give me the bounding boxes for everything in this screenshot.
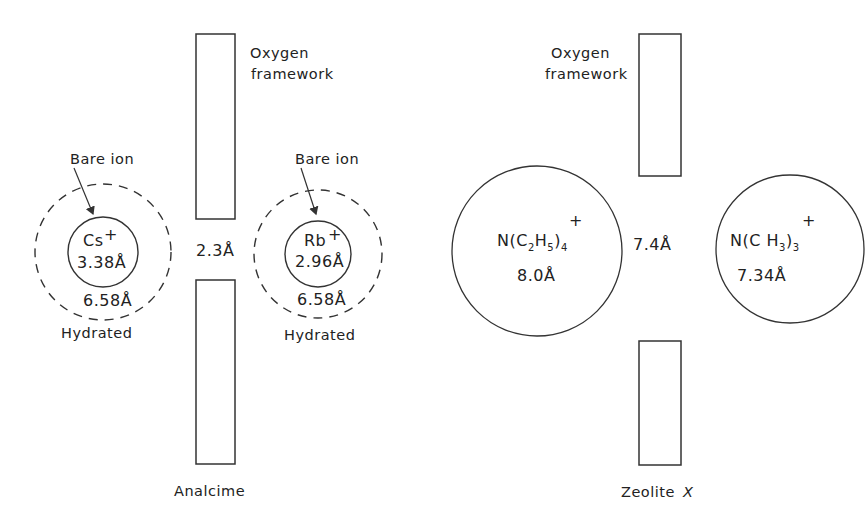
cs-symbol: Cs [83, 231, 104, 250]
zeolite-aperture-diagram: Oxygen framework 2.3Å Bare ion Cs + 3.38… [0, 0, 867, 520]
rb-pointer-arrow [301, 168, 316, 214]
tma-formula: N(C H3)3 [730, 231, 800, 253]
zeolite-caption: ZeoliteX [621, 484, 694, 500]
zeolite-framework-bottom [639, 341, 681, 465]
zeolite-x-panel: Oxygen framework 7.4Å N(C2H5)4 + 8.0Å N(… [452, 34, 864, 500]
cs-charge: + [104, 225, 118, 244]
tea-charge: + [569, 211, 583, 230]
analcime-framework-bottom [196, 280, 235, 464]
cs-hydrated-diameter: 6.58Å [83, 291, 132, 310]
cs-ion-group: Bare ion Cs + 3.38Å 6.58Å Hydrated [35, 151, 171, 341]
rb-symbol: Rb [304, 231, 326, 250]
tma-diameter: 7.34Å [737, 266, 786, 285]
cs-bare-circle [68, 217, 138, 287]
rb-bare-diameter: 2.96Å [295, 252, 344, 271]
analcime-framework-top [196, 34, 235, 219]
analcime-framework-label-2: framework [251, 66, 334, 82]
rb-hydrated-diameter: 6.58Å [297, 290, 346, 309]
rb-charge: + [328, 225, 342, 244]
rb-bare-ion-label: Bare ion [295, 151, 359, 167]
rb-hydrated-label: Hydrated [284, 327, 355, 343]
trimethylammonium-group: N(C H3)3 + 7.34Å [716, 175, 864, 323]
rb-ion-group: Bare ion Rb + 2.96Å 6.58Å Hydrated [254, 151, 382, 343]
tetraethylammonium-circle [452, 166, 622, 336]
cs-bare-diameter: 3.38Å [77, 253, 126, 272]
zeolite-framework-label-2: framework [545, 66, 628, 82]
analcime-panel: Oxygen framework 2.3Å Bare ion Cs + 3.38… [35, 34, 382, 499]
cs-pointer-arrow [74, 168, 93, 214]
tea-formula: N(C2H5)4 [497, 231, 568, 253]
tma-charge: + [802, 211, 816, 230]
analcime-caption: Analcime [174, 483, 245, 499]
cs-hydrated-label: Hydrated [61, 325, 132, 341]
analcime-framework-label-1: Oxygen [250, 45, 309, 61]
tea-diameter: 8.0Å [517, 266, 555, 285]
analcime-aperture-value: 2.3Å [196, 241, 234, 260]
zeolite-aperture-value: 7.4Å [633, 235, 671, 254]
cs-bare-ion-label: Bare ion [70, 151, 134, 167]
zeolite-framework-top [639, 34, 681, 176]
zeolite-framework-label-1: Oxygen [551, 45, 610, 61]
tetraethylammonium-group: N(C2H5)4 + 8.0Å [452, 166, 622, 336]
